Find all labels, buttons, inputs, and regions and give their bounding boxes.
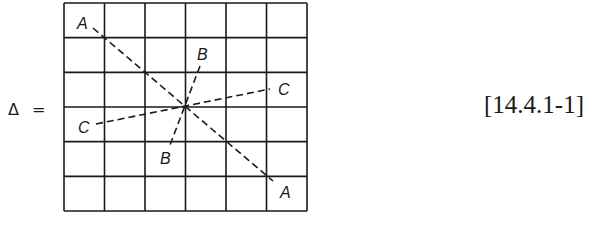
equation-number: [14.4.1-1] <box>484 91 584 119</box>
label-c: C <box>278 81 290 98</box>
label-b: B <box>197 46 208 63</box>
label-a: A <box>279 184 291 201</box>
label-c: C <box>78 119 90 136</box>
dashed-direction-lines <box>93 28 273 181</box>
dashed-line-a <box>93 28 273 181</box>
label-a: A <box>76 15 88 32</box>
label-b: B <box>160 150 171 167</box>
